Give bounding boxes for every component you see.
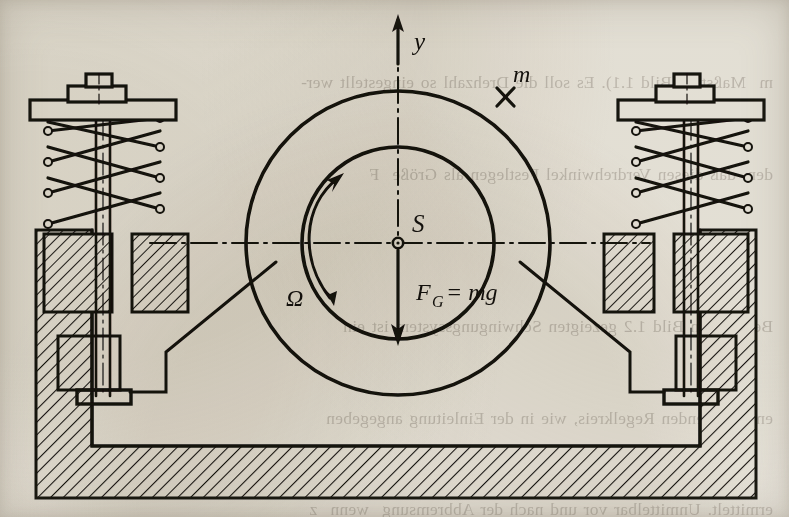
spring-top-plate-right <box>618 74 764 120</box>
spring-top-plate-left <box>30 74 176 120</box>
label-gravity-force-equation: = mg <box>446 279 498 305</box>
bearing-block-right <box>604 234 748 312</box>
unbalance-mass-marker <box>497 88 514 106</box>
label-gravity-force-subscript: G <box>432 293 444 310</box>
label-gravity-force-symbol: F <box>415 279 431 305</box>
label-unbalance-mass: m <box>513 61 530 87</box>
figure-canvas: m Maßstab (Bild 1.1). Es soll die Drehza… <box>0 0 789 517</box>
label-y-axis: y <box>411 28 426 55</box>
label-angular-speed: Ω <box>286 285 303 311</box>
center-lines <box>150 36 650 243</box>
bearing-block-left <box>44 234 188 312</box>
label-gravity-force: F G = mg <box>415 279 498 310</box>
y-axis-arrow <box>392 14 404 64</box>
rotor-schematic-drawing: y m S Ω F G = mg <box>0 0 789 517</box>
coil-spring-right <box>632 114 752 228</box>
label-center-of-mass: S <box>412 210 425 237</box>
center-point-marker <box>393 238 403 248</box>
coil-spring-left <box>44 114 164 228</box>
gravity-force-arrow <box>391 250 405 346</box>
